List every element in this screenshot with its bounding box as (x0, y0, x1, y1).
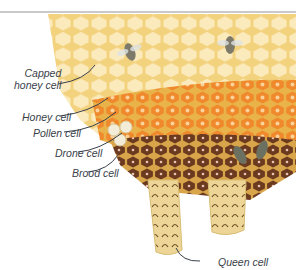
queen-cell-right (208, 180, 246, 235)
label-queen-cell: Queen cell (218, 256, 268, 268)
brood-region (110, 134, 296, 200)
label-honey-cell: Honey cell (22, 111, 71, 123)
queen-cell-left (148, 180, 182, 255)
label-pollen-cell: Pollen cell (33, 127, 81, 139)
label-line: Capped (14, 67, 61, 79)
label-line: honey cell (14, 79, 61, 91)
label-drone-cell: Drone cell (55, 147, 102, 159)
label-brood-cell: Brood cell (72, 167, 119, 179)
label-capped-honey-cell: Capped honey cell (14, 67, 61, 91)
